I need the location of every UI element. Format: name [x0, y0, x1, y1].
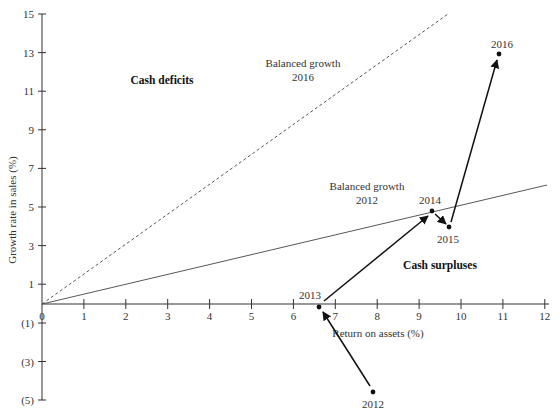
svg-text:1: 1 [29, 278, 35, 290]
svg-text:7: 7 [29, 162, 35, 174]
point-label-2016: 2016 [491, 38, 514, 50]
balanced-growth-2016-label-line2: 2016 [292, 71, 315, 83]
x-axis-title: Return on assets (%) [332, 327, 424, 340]
y-tick-labels: 15 13 11 9 7 5 3 1 (1) (3) (5) [21, 8, 34, 407]
svg-text:8: 8 [374, 310, 380, 322]
svg-text:(5): (5) [21, 394, 34, 407]
balanced-growth-2016-label-line1: Balanced growth [266, 57, 341, 69]
point-label-2015: 2015 [437, 233, 460, 245]
balanced-growth-2012-label-line2: 2012 [356, 194, 378, 206]
data-points [317, 52, 502, 395]
svg-text:7: 7 [333, 310, 339, 322]
point-2015 [447, 225, 452, 230]
svg-text:11: 11 [498, 310, 509, 322]
svg-text:9: 9 [416, 310, 422, 322]
svg-text:3: 3 [165, 310, 171, 322]
svg-text:13: 13 [23, 47, 35, 59]
point-2016 [497, 52, 502, 57]
point-label-2012: 2012 [362, 398, 384, 410]
svg-text:4: 4 [207, 310, 213, 322]
cash-deficits-label: Cash deficits [131, 74, 194, 86]
svg-text:15: 15 [23, 8, 35, 20]
svg-text:3: 3 [29, 240, 35, 252]
cash-surpluses-label: Cash surpluses [403, 259, 477, 272]
point-label-2014: 2014 [419, 194, 442, 206]
point-label-2013: 2013 [299, 289, 322, 301]
point-2012 [371, 390, 376, 395]
svg-text:0: 0 [39, 310, 45, 322]
svg-text:1: 1 [81, 310, 87, 322]
chart: 15 13 11 9 7 5 3 1 (1) (3) (5) 0 1 2 3 4… [0, 0, 560, 416]
svg-text:(3): (3) [21, 356, 34, 369]
point-2013 [317, 305, 322, 310]
balanced-growth-2016-line [42, 14, 448, 304]
svg-text:6: 6 [291, 310, 297, 322]
svg-text:5: 5 [29, 201, 35, 213]
svg-text:10: 10 [456, 310, 468, 322]
svg-text:12: 12 [539, 310, 550, 322]
balanced-growth-2012-line [42, 185, 547, 304]
svg-text:2: 2 [123, 310, 129, 322]
point-2014 [430, 209, 435, 214]
balanced-growth-2012-label-line1: Balanced growth [330, 180, 405, 192]
y-axis-title: Growth rate in sales (%) [6, 156, 19, 264]
svg-text:11: 11 [23, 85, 34, 97]
x-tick-labels: 0 1 2 3 4 5 6 7 8 9 10 11 12 [39, 310, 550, 322]
svg-text:9: 9 [29, 124, 35, 136]
svg-text:(1): (1) [21, 317, 34, 330]
svg-text:5: 5 [249, 310, 255, 322]
